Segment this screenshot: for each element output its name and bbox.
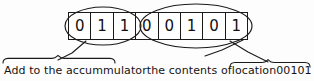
middle-caption-text: the contents of [147, 64, 232, 77]
operand-cross-leader [205, 40, 243, 56]
instruction-word-bits: 0 1 1 0 0 1 0 1 [68, 12, 248, 40]
operand-caption-value: 00101 [276, 64, 312, 77]
bit-cell: 0 [136, 13, 158, 39]
operand-caption-word: location [232, 64, 276, 77]
operand-leader-line [230, 41, 268, 62]
caption-line: Add to the accummulatorthe contents oflo… [4, 64, 312, 79]
bit-cell: 1 [226, 13, 247, 39]
bit-cell: 0 [203, 13, 225, 39]
opcode-leader-line [58, 41, 86, 60]
bit-cell: 1 [114, 13, 136, 39]
bit-cell: 1 [91, 13, 113, 39]
opcode-caption-text: Add to the accummulator [4, 64, 147, 77]
bit-cell: 0 [159, 13, 181, 39]
bit-cell: 0 [69, 13, 91, 39]
instruction-word-figure: 0 1 1 0 0 1 0 1 Add to the accummulatort… [0, 0, 314, 81]
bit-cell: 1 [181, 13, 203, 39]
